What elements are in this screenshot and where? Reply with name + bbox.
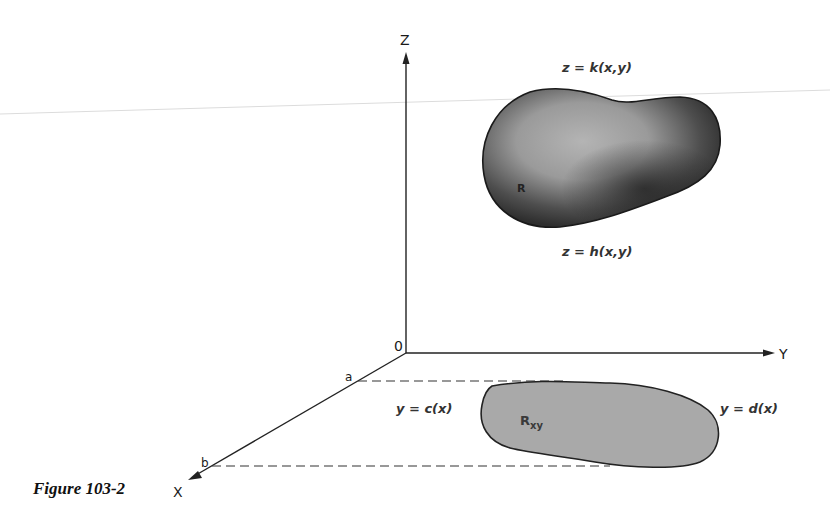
solid-label: R [517, 182, 526, 195]
z-axis-label: Z [400, 32, 410, 48]
y-axis-label: Y [778, 346, 788, 362]
z-arrow-icon [403, 52, 410, 64]
projection-region [481, 381, 718, 467]
point-a-label: a [345, 370, 352, 384]
right-boundary-equation: y = d(x) [720, 401, 778, 416]
top-surface-equation: z = k(x,y) [561, 60, 632, 75]
figure-caption: Figure 103-2 [32, 479, 126, 498]
x-axis [188, 353, 406, 480]
y-axis [406, 350, 775, 357]
x-axis-label: X [173, 484, 183, 500]
origin-label: 0 [394, 338, 403, 354]
solid-region [483, 89, 720, 228]
left-boundary-equation: y = c(x) [396, 401, 452, 416]
point-b-label: b [201, 456, 209, 470]
bottom-surface-equation: z = h(x,y) [561, 244, 632, 259]
z-axis [403, 52, 410, 353]
y-arrow-icon [763, 350, 775, 357]
figure-canvas: Z Y X 0 a b Rxy y = c(x) y = d(x) R z = … [0, 0, 830, 519]
